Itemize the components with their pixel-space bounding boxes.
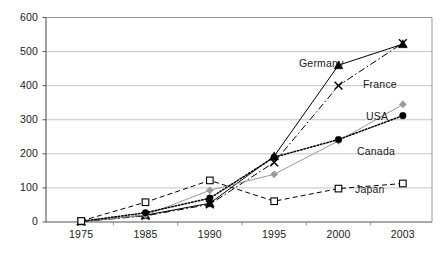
marker-japan-1990 (207, 177, 214, 184)
marker-usa-1995 (271, 171, 278, 178)
marker-japan-1985 (142, 199, 149, 206)
marker-japan-1995 (271, 198, 278, 205)
marker-canada-2003 (400, 112, 407, 119)
marker-japan-2003 (400, 180, 407, 187)
line-chart: 0100200300400500600 19751985199019952000… (0, 0, 443, 260)
marker-japan-1975 (78, 218, 85, 225)
y-tick-label-400: 400 (4, 79, 38, 91)
y-tick-label-100: 100 (4, 181, 38, 193)
x-tick-label-2003: 2003 (380, 228, 426, 240)
series-label-japan: Japan (355, 183, 385, 195)
y-tick-label-500: 500 (4, 45, 38, 57)
x-tick-label-1985: 1985 (123, 228, 169, 240)
marker-canada-1995 (271, 154, 278, 161)
y-tick-label-600: 600 (4, 11, 38, 23)
series-label-canada: Canada (357, 145, 395, 157)
x-tick-label-2000: 2000 (316, 228, 362, 240)
series-label-usa: USA (366, 110, 388, 122)
x-tick-label-1995: 1995 (251, 228, 297, 240)
marker-usa-2003 (399, 101, 406, 108)
series-line-usa (81, 104, 403, 221)
chart-plot-svg (0, 0, 443, 260)
marker-canada-2000 (335, 136, 342, 143)
y-tick-label-0: 0 (4, 215, 38, 227)
series-label-germany: Germany (299, 57, 344, 69)
series-label-france: France (363, 78, 397, 90)
x-tick-label-1990: 1990 (187, 228, 233, 240)
gridlines (46, 18, 432, 188)
chart-screenshot: 0100200300400500600 19751985199019952000… (0, 0, 443, 260)
y-tick-label-200: 200 (4, 147, 38, 159)
y-tick-label-300: 300 (4, 113, 38, 125)
marker-canada-1985 (142, 209, 149, 216)
marker-japan-2000 (335, 185, 342, 192)
x-tick-label-1975: 1975 (58, 228, 104, 240)
marker-canada-1990 (207, 195, 214, 202)
